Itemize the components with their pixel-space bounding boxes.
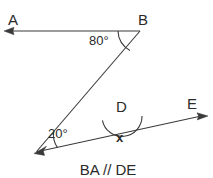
point-label-a: A bbox=[8, 11, 18, 28]
geometry-diagram-canvas: A B D E 80° 20° x BA // DE bbox=[0, 0, 213, 178]
point-label-d: D bbox=[116, 98, 127, 115]
point-label-b: B bbox=[138, 11, 148, 28]
geometry-figure: A B D E 80° 20° x BA // DE bbox=[0, 0, 213, 178]
ray-ba-arrowhead-icon bbox=[4, 27, 14, 34]
ray-de-arrowhead-icon bbox=[197, 113, 208, 120]
figure-caption: BA // DE bbox=[80, 161, 137, 178]
angle-label-d-unknown: x bbox=[116, 130, 124, 145]
angle-label-b: 80° bbox=[89, 33, 109, 48]
point-label-e: E bbox=[187, 95, 197, 112]
angle-label-c: 20° bbox=[48, 126, 68, 141]
angle-arc-b bbox=[118, 31, 130, 50]
